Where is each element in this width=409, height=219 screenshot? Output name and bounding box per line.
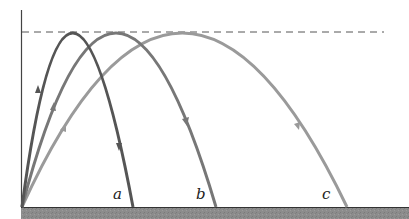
projectile-diagram: a b c: [0, 0, 409, 219]
arrow-down-icon: [294, 122, 300, 130]
arrow-up-icon: [35, 85, 41, 93]
label-b: b: [196, 185, 206, 203]
diagram-canvas: a b c: [0, 0, 409, 219]
label-a: a: [113, 185, 122, 203]
ground: [21, 207, 409, 219]
label-c: c: [322, 185, 331, 203]
